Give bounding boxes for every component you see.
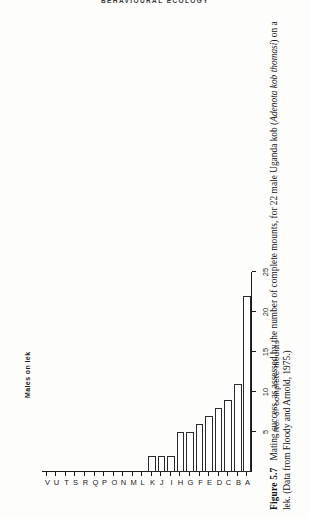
category-tick-U — [55, 472, 56, 476]
category-tick-A — [246, 472, 247, 476]
bar-K — [148, 456, 156, 472]
category-tick-T — [65, 472, 66, 476]
category-tick-O — [113, 472, 114, 476]
bar-B — [234, 384, 242, 472]
category-tick-L — [141, 472, 142, 476]
category-tick-M — [132, 472, 133, 476]
value-tick-10 — [252, 391, 256, 392]
value-tick-20 — [252, 311, 256, 312]
category-tick-N — [122, 472, 123, 476]
category-tick-H — [179, 472, 180, 476]
rotated-figure-container: 510152025 ABCDEFGHIJKLMNOPQRSTUV No. of … — [0, 0, 310, 518]
category-tick-E — [208, 472, 209, 476]
bar-H — [177, 432, 185, 472]
bar-J — [158, 456, 166, 472]
bar-F — [196, 424, 204, 472]
species-name: Adenota kob thomasi — [269, 43, 279, 122]
caption-text-before-species: Mating success, as assessed by the numbe… — [269, 122, 279, 461]
category-tick-K — [151, 472, 152, 476]
category-tick-Q — [94, 472, 95, 476]
figure-caption: Figure 5.7Mating success, as assessed by… — [268, 10, 294, 510]
bar-A — [243, 296, 251, 472]
bar-D — [215, 408, 223, 472]
bar-chart-plot: 510152025 ABCDEFGHIJKLMNOPQRSTUV — [42, 272, 252, 472]
category-tick-V — [46, 472, 47, 476]
value-tick-25 — [252, 271, 256, 272]
category-tick-F — [199, 472, 200, 476]
category-tick-G — [189, 472, 190, 476]
category-tick-P — [103, 472, 104, 476]
bar-C — [224, 400, 232, 472]
category-tick-D — [218, 472, 219, 476]
bar-I — [167, 456, 175, 472]
category-tick-J — [160, 472, 161, 476]
category-tick-C — [227, 472, 228, 476]
category-tick-I — [170, 472, 171, 476]
figure-number: Figure 5.7 — [269, 468, 279, 510]
value-tick-15 — [252, 351, 256, 352]
value-axis-line — [251, 272, 252, 472]
category-axis-title: Males on lek — [24, 352, 31, 398]
category-tick-S — [74, 472, 75, 476]
value-tick-5 — [252, 431, 256, 432]
bar-G — [186, 432, 194, 472]
category-tick-label-V: V — [41, 478, 53, 487]
category-tick-B — [237, 472, 238, 476]
category-tick-R — [84, 472, 85, 476]
bar-E — [205, 416, 213, 472]
figure-page: BEHAVIOURAL ECOLOGY 510152025 ABCDEFGHIJ… — [0, 0, 310, 518]
